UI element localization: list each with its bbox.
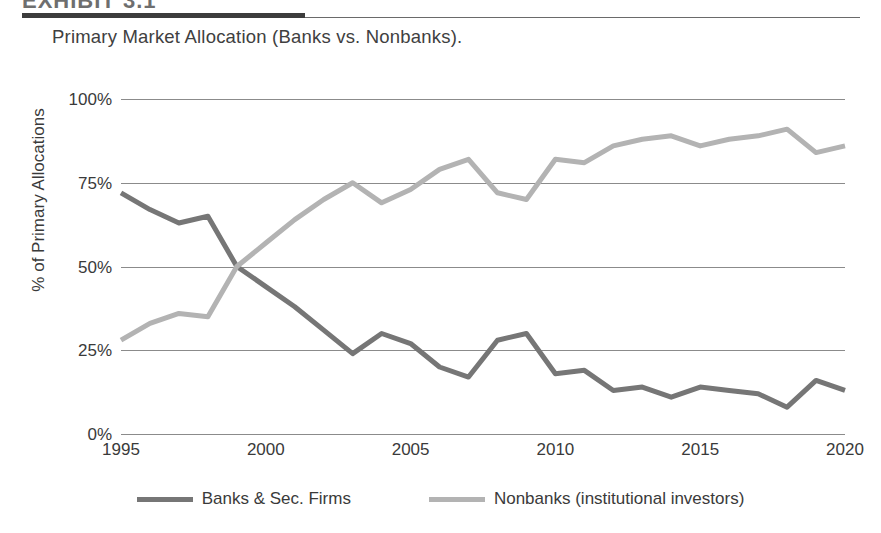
legend-swatch-icon (429, 497, 485, 502)
chart-plot-area: % of Primary Allocations 100%75%50%25%0%… (0, 0, 881, 533)
exhibit-figure: EXHIBIT 3.1 Primary Market Allocation (B… (0, 0, 881, 533)
series-lines (0, 0, 881, 533)
series-line (121, 129, 845, 340)
series-line (121, 193, 845, 407)
legend-label: Banks & Sec. Firms (202, 489, 351, 509)
legend-item[interactable]: Nonbanks (institutional investors) (429, 489, 744, 509)
legend-label: Nonbanks (institutional investors) (494, 489, 744, 509)
legend-item[interactable]: Banks & Sec. Firms (137, 489, 351, 509)
legend-swatch-icon (137, 497, 193, 502)
chart-legend: Banks & Sec. FirmsNonbanks (institutiona… (0, 489, 881, 509)
